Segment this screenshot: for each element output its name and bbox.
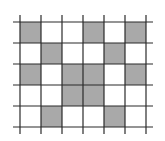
empty-cell (62, 106, 83, 127)
shaded-cell (20, 22, 41, 43)
shaded-cell (41, 106, 62, 127)
shaded-cell (83, 85, 104, 106)
shaded-cell (125, 64, 146, 85)
empty-cell (125, 43, 146, 64)
empty-cell (20, 106, 41, 127)
empty-cell (62, 22, 83, 43)
shaded-cell (41, 43, 62, 64)
empty-cell (41, 85, 62, 106)
shaded-cell (104, 43, 125, 64)
shaded-grid-diagram (0, 0, 165, 141)
empty-cell (83, 106, 104, 127)
shaded-cell (20, 64, 41, 85)
empty-cell (20, 43, 41, 64)
empty-cell (125, 85, 146, 106)
empty-cell (41, 64, 62, 85)
shaded-cell (62, 64, 83, 85)
empty-cell (41, 22, 62, 43)
empty-cell (83, 43, 104, 64)
empty-cell (125, 106, 146, 127)
empty-cell (62, 43, 83, 64)
empty-cell (104, 85, 125, 106)
empty-cell (104, 22, 125, 43)
shaded-cell (125, 22, 146, 43)
shaded-cell (104, 106, 125, 127)
shaded-cell (83, 22, 104, 43)
empty-cell (104, 64, 125, 85)
shaded-cell (62, 85, 83, 106)
empty-cell (20, 85, 41, 106)
shaded-cell (83, 64, 104, 85)
